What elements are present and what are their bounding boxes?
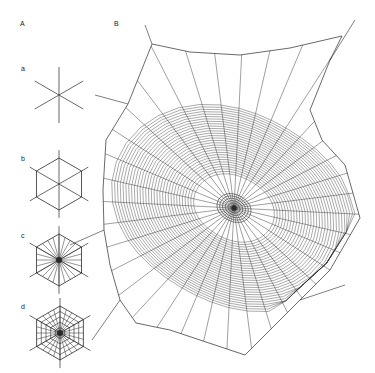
radius — [151, 46, 234, 208]
frame-threads — [103, 36, 360, 355]
anchor-thread — [70, 230, 104, 245]
hub — [57, 330, 63, 336]
stage-c-diagram — [30, 226, 89, 294]
radius — [107, 208, 234, 247]
radius — [53, 237, 59, 260]
radius — [53, 260, 59, 283]
radius — [181, 208, 234, 334]
radius — [59, 260, 65, 283]
radius — [35, 81, 59, 95]
completed-orb-web-panel-B — [70, 20, 360, 355]
radius — [36, 254, 59, 260]
radius — [59, 260, 82, 266]
radius — [59, 184, 88, 201]
radius — [30, 184, 59, 201]
radius — [105, 154, 234, 208]
radius — [59, 95, 83, 109]
radius — [59, 237, 65, 260]
radius — [30, 167, 59, 184]
hub-center — [232, 206, 237, 211]
anchor-thread — [330, 20, 355, 60]
radius — [204, 208, 234, 341]
radius — [112, 129, 234, 208]
anchor-thread — [145, 25, 152, 44]
anchor-thread — [300, 285, 345, 300]
radius — [59, 254, 82, 260]
construction-stages-panel-A — [30, 67, 91, 368]
radius — [59, 167, 88, 184]
anchor-thread — [95, 95, 128, 104]
radius — [234, 208, 288, 312]
radius — [215, 53, 234, 208]
hub — [56, 257, 62, 263]
stage-d-diagram — [30, 298, 91, 368]
radius — [234, 208, 302, 298]
radius — [126, 108, 234, 208]
radius — [35, 95, 59, 109]
radius — [234, 208, 252, 348]
anchor-thread — [92, 300, 120, 340]
radius — [36, 260, 59, 266]
spider-web-figure — [0, 0, 375, 373]
stage-b-diagram — [30, 150, 89, 218]
radius — [59, 81, 83, 95]
stage-a-diagram — [35, 67, 83, 123]
radius — [234, 57, 331, 208]
radius — [227, 208, 234, 349]
